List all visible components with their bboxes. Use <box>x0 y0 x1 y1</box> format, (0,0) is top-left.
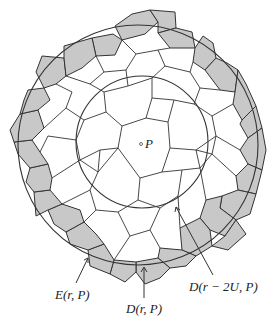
label-d-r-p: D(r, P) <box>126 301 162 317</box>
point-p-label: P <box>145 136 153 152</box>
point-p-marker <box>140 143 143 146</box>
inner-circle <box>76 76 208 208</box>
voronoi-diagram <box>0 0 274 317</box>
label-d-r-2u-p: D(r − 2U, P) <box>189 279 258 295</box>
shaded-annulus-cells <box>10 10 266 284</box>
label-e-r-p: E(r, P) <box>55 287 90 303</box>
arrow-e-r-p <box>76 258 88 283</box>
